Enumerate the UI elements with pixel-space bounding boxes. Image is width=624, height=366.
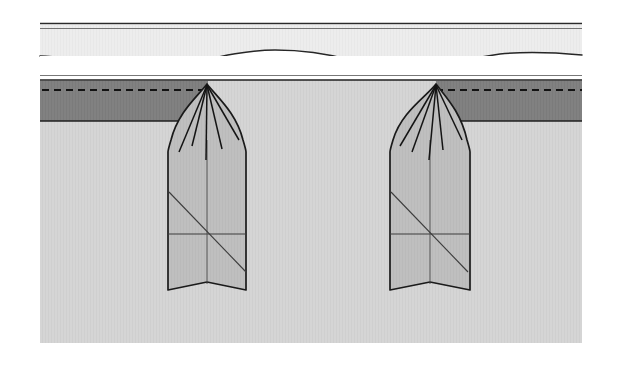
water-gap xyxy=(40,56,582,76)
left-fan-line-3 xyxy=(206,85,207,160)
figure-root xyxy=(0,0,624,366)
soil-block xyxy=(40,76,582,344)
cross-section-figure xyxy=(0,0,624,366)
